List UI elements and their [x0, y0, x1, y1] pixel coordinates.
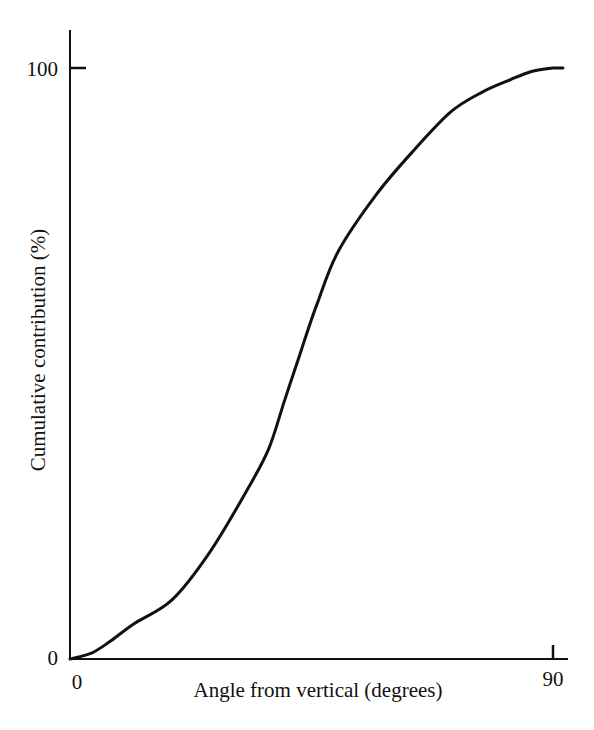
x-tick-label-0: 0: [72, 670, 83, 694]
x-tick-label-90: 90: [543, 667, 564, 691]
y-tick-label-0: 0: [48, 646, 59, 670]
y-tick-label-100: 100: [27, 57, 59, 81]
cumulative-curve: [70, 68, 563, 659]
x-axis-label: Angle from vertical (degrees): [194, 678, 443, 702]
chart: 100 0 0 90 Angle from vertical (degrees)…: [0, 0, 594, 730]
y-axis-label: Cumulative contribution (%): [26, 229, 50, 472]
